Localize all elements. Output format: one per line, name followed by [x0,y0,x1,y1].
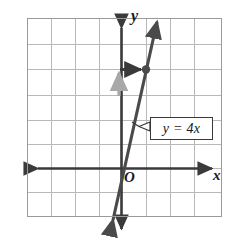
plotted-point [142,65,150,73]
origin-label: O [124,170,135,185]
equation-label: y = 4x [163,121,201,137]
coordinate-graph-figure: y = 4x y x O [0,0,241,238]
x-axis-label: x [213,168,221,183]
y-axis-label: y [131,8,138,24]
equation-callout-box: y = 4x [150,117,213,140]
